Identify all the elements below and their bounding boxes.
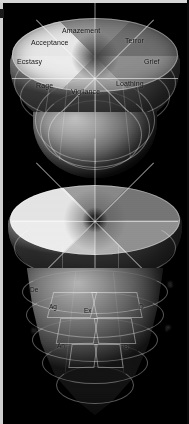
label-amazement: Amazement bbox=[62, 27, 100, 34]
page-edge-top bbox=[0, 0, 189, 3]
label-abbr-s: S bbox=[168, 281, 172, 288]
label-acceptance: Acceptance bbox=[31, 39, 69, 46]
label-vigilance: Vigilance bbox=[71, 88, 100, 95]
label-abbr-b: B bbox=[124, 343, 128, 350]
label-layer: Amazement Terror Grief Loathing Vigilanc… bbox=[0, 0, 189, 424]
label-loathing: Loathing bbox=[116, 80, 144, 87]
corner-marker bbox=[0, 9, 4, 18]
figure-canvas: Amazement Terror Grief Loathing Vigilanc… bbox=[0, 0, 189, 424]
label-abbr-ex: Ex bbox=[84, 307, 92, 314]
page-edge-left bbox=[0, 0, 3, 424]
page-edge-right bbox=[187, 0, 189, 424]
label-abbr-ag: Ag bbox=[49, 303, 57, 310]
label-abbr-p: P bbox=[166, 325, 170, 332]
label-ecstasy: Ecstasy bbox=[17, 58, 42, 65]
label-abbr-d: D bbox=[139, 303, 144, 310]
label-abbr-de: De bbox=[30, 286, 38, 293]
label-grief: Grief bbox=[144, 58, 160, 65]
label-abbr-an: An bbox=[57, 342, 65, 349]
label-rage: Rage bbox=[36, 82, 53, 89]
label-terror: Terror bbox=[125, 37, 144, 44]
label-abbr-h: H bbox=[32, 327, 37, 334]
